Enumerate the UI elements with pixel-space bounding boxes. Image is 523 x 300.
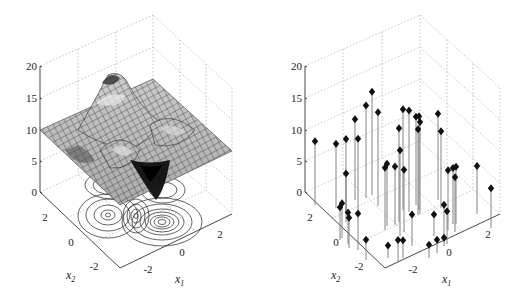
diamond-marker: [400, 236, 406, 244]
diamond-marker: [441, 201, 447, 209]
diamond-marker: [444, 207, 450, 215]
diamond-marker: [441, 234, 447, 242]
x2-tick: 0: [333, 236, 339, 248]
diamond-marker: [409, 211, 415, 219]
diamond-marker: [312, 137, 318, 145]
x1-axis-label: x1: [174, 272, 184, 288]
z-tick: 0: [32, 186, 38, 198]
diamond-marker: [400, 105, 406, 113]
diamond-marker: [369, 88, 375, 96]
x1-tick: 2: [217, 228, 223, 240]
diamond-marker: [385, 241, 391, 249]
x1-tick: 2: [485, 228, 491, 240]
surface-plot: 20 15 10 5 0 2 0 -2 -2 0 2 x2 x1: [26, 15, 232, 288]
diamond-marker: [406, 107, 412, 115]
x2-tick: 2: [307, 211, 313, 223]
z-tick-labels: 20 15 10 5 0: [291, 60, 303, 198]
z-tick: 5: [32, 155, 38, 167]
stem-plot: 20 15 10 5 0 2 0 -2 -2 0 2 x2 x1: [291, 15, 500, 288]
x2-axis-label: x2: [330, 268, 340, 284]
diamond-marker: [396, 124, 402, 132]
diamond-marker: [435, 110, 441, 118]
diamond-marker: [438, 127, 444, 135]
z-tick: 15: [26, 92, 38, 104]
x2-tick-labels: 2 0 -2: [307, 211, 363, 272]
diamond-marker: [363, 101, 369, 109]
stems: [312, 88, 494, 262]
z-tick: 10: [26, 124, 38, 136]
diamond-marker: [397, 146, 403, 154]
z-tick: 20: [26, 60, 38, 72]
x1-tick: 0: [446, 246, 452, 258]
diamond-marker: [445, 166, 451, 174]
diamond-marker: [474, 162, 480, 170]
diamond-marker: [352, 115, 358, 123]
z-tick: 0: [297, 186, 303, 198]
diamond-marker: [431, 211, 437, 219]
diamond-marker: [343, 135, 349, 143]
diamond-marker: [417, 118, 423, 126]
x2-tick: -2: [89, 260, 98, 272]
diamond-marker: [426, 241, 432, 249]
diamond-marker: [401, 166, 407, 174]
diamond-marker: [355, 209, 361, 217]
x2-tick: 2: [42, 211, 48, 223]
z-tick: 10: [291, 124, 303, 136]
diamond-marker: [343, 169, 349, 177]
box-grid: [305, 15, 500, 249]
diamond-marker: [355, 135, 361, 143]
diamond-marker: [392, 162, 398, 170]
x2-tick: 0: [68, 236, 74, 248]
z-tick: 5: [297, 155, 303, 167]
diamond-marker: [375, 108, 381, 116]
x1-tick: -2: [143, 263, 152, 275]
z-tick: 20: [291, 60, 303, 72]
mesh-surface: [40, 73, 232, 205]
diamond-marker: [363, 236, 369, 244]
x1-tick: 0: [179, 246, 185, 258]
diamond-marker: [346, 214, 352, 222]
z-tick-labels: 20 15 10 5 0: [26, 60, 38, 198]
x2-tick-labels: 2 0 -2: [42, 211, 98, 272]
figure: 20 15 10 5 0 2 0 -2 -2 0 2 x2 x1: [0, 0, 523, 300]
z-tick: 15: [291, 92, 303, 104]
x1-tick: -2: [408, 263, 417, 275]
x2-tick: -2: [354, 260, 363, 272]
diamond-marker: [488, 184, 494, 192]
x1-axis-label: x1: [441, 272, 451, 288]
x2-axis-label: x2: [65, 268, 75, 284]
